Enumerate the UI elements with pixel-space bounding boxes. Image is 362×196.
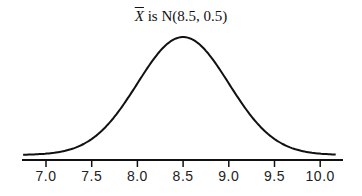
x-tick-label: 8.0 [117,168,157,184]
x-tick-label: 7.0 [26,168,66,184]
plot-area [0,0,362,196]
x-tick-label: 8.5 [163,168,203,184]
x-tick-label: 9.0 [209,168,249,184]
chart-root: X is N(8.5, 0.5) 7.07.58.08.59.09.510.0 [0,0,362,196]
x-tick-label: 10.0 [300,168,340,184]
x-axis-ticks [46,160,320,167]
x-tick-label: 9.5 [255,168,295,184]
normal-density-curve [23,37,336,155]
x-tick-label: 7.5 [72,168,112,184]
